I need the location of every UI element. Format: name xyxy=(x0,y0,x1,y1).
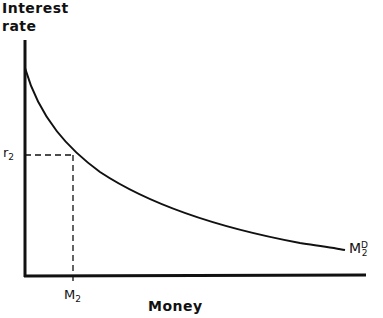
curve-subscript: 2 xyxy=(362,248,368,258)
y-axis-title-line2: rate xyxy=(2,18,37,34)
curve-sup-sub: D2 xyxy=(361,241,368,257)
r2-label: r2 xyxy=(3,145,14,162)
y-axis-title-line1: Interest xyxy=(2,0,69,16)
m2-label: M2 xyxy=(64,287,81,304)
curve-symbol: M xyxy=(349,240,361,256)
r-subscript: 2 xyxy=(8,152,14,162)
x-axis-title: Money xyxy=(148,298,203,314)
m-subscript: 2 xyxy=(75,294,81,304)
x-axis xyxy=(24,275,366,276)
m-symbol: M xyxy=(64,287,75,302)
curve-label: MD2 xyxy=(349,240,368,257)
money-demand-diagram xyxy=(0,0,383,318)
